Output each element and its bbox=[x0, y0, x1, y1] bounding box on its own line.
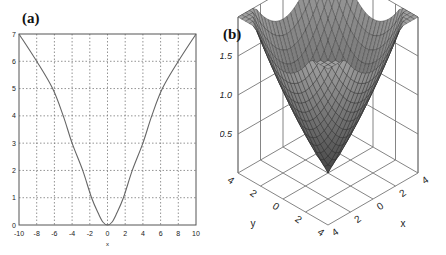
x-tick-label: 4 bbox=[330, 226, 341, 238]
y-tick-label: 1 bbox=[12, 194, 16, 201]
x-tick-label: -6 bbox=[51, 230, 57, 237]
x-tick-label: 0 bbox=[375, 200, 386, 212]
z-tick-label: 1.5 bbox=[220, 51, 233, 61]
y-tick-label: 4 bbox=[12, 112, 16, 119]
x-tick-label: 8 bbox=[176, 230, 180, 237]
y-tick-label: 2 bbox=[293, 213, 304, 225]
x-tick-label: 4 bbox=[141, 230, 145, 237]
panel-b: (b) 0.51.01.54202442024yx bbox=[220, 0, 446, 255]
y-tick-label: 0 bbox=[12, 222, 16, 229]
panel-b-label: (b) bbox=[223, 26, 241, 43]
grid bbox=[19, 34, 196, 225]
x-tick-label: -2 bbox=[87, 230, 93, 237]
x-tick-label: 2 bbox=[397, 187, 408, 199]
x-tick-label: 2 bbox=[123, 230, 127, 237]
y-tick-label: 4 bbox=[226, 174, 237, 186]
x-tick-label: -10 bbox=[14, 230, 24, 237]
y-tick-label: 5 bbox=[12, 85, 16, 92]
x-tick-label: 0 bbox=[106, 230, 110, 237]
y-tick-label: 2 bbox=[12, 167, 16, 174]
y-axis-label: y bbox=[251, 218, 256, 229]
panel-a-label: (a) bbox=[22, 10, 40, 27]
x-tick-label: -8 bbox=[34, 230, 40, 237]
x-axis-label: x bbox=[106, 241, 109, 247]
surface-plot: 0.51.01.54202442024yx bbox=[220, 0, 446, 255]
panel-a: (a) -10-8-6-4-2024681001234567x bbox=[0, 0, 220, 255]
x-tick-label: 10 bbox=[192, 230, 200, 237]
x-tick-label: 2 bbox=[352, 213, 363, 225]
z-tick-label: 0.5 bbox=[220, 129, 233, 139]
y-tick-label: 4 bbox=[316, 226, 327, 238]
y-tick-label: 6 bbox=[12, 58, 16, 65]
y-tick-label: 3 bbox=[12, 140, 16, 147]
x-tick-label: -4 bbox=[69, 230, 75, 237]
surface-mesh bbox=[238, 0, 418, 173]
y-tick-label: 0 bbox=[271, 200, 282, 212]
y-tick-label: 2 bbox=[248, 187, 259, 199]
x-axis-label: x bbox=[401, 218, 406, 229]
z-tick-label: 1.0 bbox=[220, 90, 232, 100]
y-tick-label: 7 bbox=[12, 31, 16, 38]
x-tick-label: 6 bbox=[159, 230, 163, 237]
x-tick-label: 4 bbox=[420, 174, 431, 186]
line-chart: -10-8-6-4-2024681001234567x bbox=[0, 0, 220, 255]
